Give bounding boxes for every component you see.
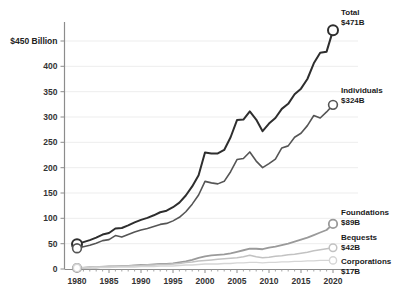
- x-tick-label: 2000: [196, 276, 215, 286]
- y-tick-label: $450 Billion: [10, 36, 57, 46]
- x-tick-labels: 198019851990199520002005201020152020: [68, 276, 343, 286]
- y-tick-label: 250: [43, 137, 57, 147]
- giving-trends-line-chart: $450 Billion400350300250200150100500 198…: [0, 0, 404, 302]
- series-line-corporations: [77, 260, 333, 268]
- y-tick-label: 300: [43, 112, 57, 122]
- series-label-name-individuals: Individuals: [341, 86, 383, 95]
- series-label-name-total: Total: [341, 8, 360, 17]
- y-tick-label: 100: [43, 213, 57, 223]
- x-tick-label: 1990: [132, 276, 151, 286]
- y-tick-label: 0: [53, 264, 58, 274]
- series-label-value-total: $471B: [341, 18, 365, 27]
- series-label-value-individuals: $324B: [341, 96, 365, 105]
- y-tick-label: 350: [43, 87, 57, 97]
- series-end-marker-bequests: [329, 244, 337, 252]
- x-tick-label: 2010: [260, 276, 279, 286]
- y-tick-label: 150: [43, 188, 57, 198]
- series-label-name-corporations: Corporations: [341, 257, 392, 266]
- series-end-marker-total: [328, 25, 338, 35]
- series-label-value-corporations: $17B: [341, 267, 360, 276]
- series-start-marker-corporations: [73, 264, 80, 271]
- y-tick-label: 200: [43, 163, 57, 173]
- x-tick-label: 1980: [68, 276, 87, 286]
- x-tick-label: 2020: [324, 276, 343, 286]
- y-tick-label: 50: [48, 239, 58, 249]
- series-label-value-foundations: $89B: [341, 218, 360, 227]
- series-end-marker-corporations: [329, 257, 336, 264]
- x-tick-label: 2015: [292, 276, 311, 286]
- start-markers: [72, 239, 82, 272]
- y-tick-labels: $450 Billion400350300250200150100500: [10, 36, 58, 274]
- x-ticks: [77, 270, 333, 274]
- x-tick-label: 1985: [100, 276, 119, 286]
- series-start-marker-individuals: [73, 244, 82, 253]
- series-end-marker-individuals: [329, 100, 338, 109]
- x-axis-group: [65, 270, 359, 274]
- x-tick-label: 2005: [228, 276, 247, 286]
- series-end-marker-foundations: [329, 220, 337, 228]
- series-label-name-bequests: Bequests: [341, 233, 378, 242]
- x-tick-label: 1995: [164, 276, 183, 286]
- series-line-individuals: [77, 105, 333, 248]
- series-label-name-foundations: Foundations: [341, 208, 390, 217]
- y-tick-label: 400: [43, 61, 57, 71]
- gridlines-group: [65, 41, 359, 244]
- y-axis-group: [61, 22, 65, 269]
- series-label-value-bequests: $42B: [341, 243, 360, 252]
- chart-container: $450 Billion400350300250200150100500 198…: [0, 0, 404, 302]
